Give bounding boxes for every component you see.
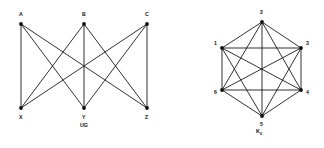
graph-caption-ug: UG	[80, 122, 88, 128]
vertex-label-6: 6	[214, 89, 217, 95]
vertex-label-A: A	[19, 11, 23, 17]
caption-group-ug: UG	[80, 122, 88, 128]
vertex-A[interactable]	[19, 22, 23, 26]
vertex-1[interactable]	[220, 46, 224, 50]
vertex-Z[interactable]	[145, 106, 149, 110]
vertex-label-X: X	[19, 114, 23, 120]
vertex-label-4: 4	[306, 89, 309, 95]
graph-caption-subscript-k6: 6	[260, 132, 262, 136]
vertex-2[interactable]	[260, 20, 264, 24]
vertex-5[interactable]	[260, 114, 264, 118]
vertex-C[interactable]	[145, 22, 149, 26]
vertex-3[interactable]	[299, 46, 303, 50]
vertex-Y[interactable]	[82, 106, 86, 110]
vertex-label-B: B	[82, 11, 86, 17]
vertex-label-Y: Y	[82, 114, 86, 120]
vertex-4[interactable]	[299, 88, 303, 92]
vertex-label-1: 1	[214, 40, 217, 46]
vertex-label-2: 2	[260, 9, 263, 15]
vertex-label-3: 3	[306, 40, 309, 46]
vertex-label-C: C	[145, 11, 149, 17]
graph-figure: ABCXYZUG 123456K6	[0, 0, 324, 148]
vertex-X[interactable]	[19, 106, 23, 110]
vertex-B[interactable]	[82, 22, 86, 26]
vertex-label-5: 5	[260, 121, 263, 127]
figure-background	[0, 0, 324, 148]
vertex-6[interactable]	[220, 88, 224, 92]
